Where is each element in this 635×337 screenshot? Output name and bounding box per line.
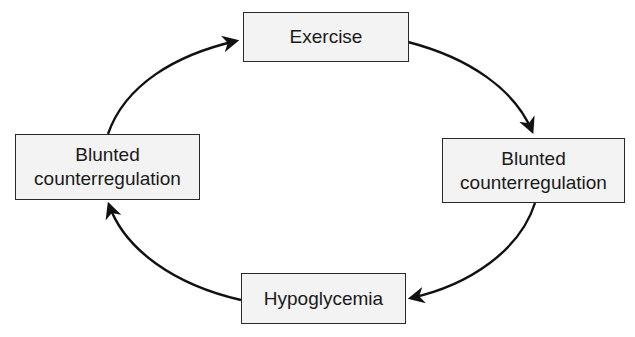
node-label-line-2: counterregulation bbox=[460, 171, 607, 195]
arrow-hypoglycemia-to-blunted-left bbox=[109, 205, 241, 300]
node-label-line-2: counterregulation bbox=[34, 167, 181, 191]
node-label-line-1: Blunted bbox=[501, 147, 565, 171]
arrow-exercise-to-blunted-right bbox=[408, 42, 532, 131]
node-hypoglycemia: Hypoglycemia bbox=[241, 273, 406, 324]
arrow-blunted-left-to-exercise bbox=[108, 41, 236, 134]
node-blunted-counterregulation-right: Blunted counterregulation bbox=[442, 138, 625, 203]
arrow-blunted-right-to-hypoglycemia bbox=[411, 203, 535, 298]
node-label-line-1: Blunted bbox=[75, 143, 139, 167]
node-exercise: Exercise bbox=[243, 12, 409, 62]
node-label: Hypoglycemia bbox=[264, 287, 383, 311]
node-blunted-counterregulation-left: Blunted counterregulation bbox=[15, 134, 200, 200]
node-label: Exercise bbox=[290, 25, 363, 49]
